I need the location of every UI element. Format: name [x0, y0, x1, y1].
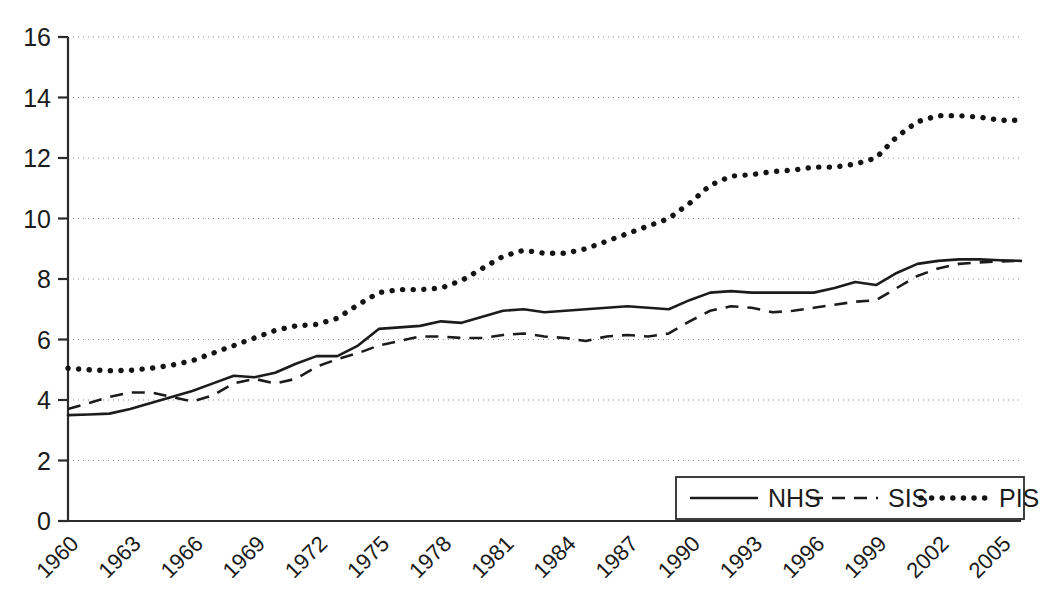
x-tick-label: 1972: [280, 531, 332, 583]
x-tick-label: 1963: [93, 531, 145, 583]
chart-legend: NHSSISPIS: [676, 477, 1039, 519]
x-tick-label: 1993: [715, 531, 767, 583]
x-tick-label: 1975: [342, 531, 394, 583]
x-tick-label: 1996: [777, 531, 829, 583]
line-chart-svg: 0246810121416 19601963196619691972197519…: [0, 0, 1059, 608]
x-tick-label: 1987: [591, 531, 643, 583]
y-tick-label: 12: [23, 144, 51, 172]
x-ticks-group: 1960196319661969197219751978198119841987…: [31, 531, 1016, 583]
x-tick-label: 2005: [964, 531, 1016, 583]
y-tick-label: 4: [37, 386, 51, 414]
y-tick-label: 6: [37, 326, 51, 354]
chart-figure: 0246810121416 19601963196619691972197519…: [0, 0, 1059, 608]
x-tick-label: 1984: [528, 531, 580, 583]
x-tick-label: 1969: [218, 531, 270, 583]
y-tick-label: 8: [37, 265, 51, 293]
y-tick-label: 14: [23, 84, 51, 112]
y-tick-label: 0: [37, 507, 51, 535]
legend-label-pis: PIS: [999, 484, 1039, 512]
x-tick-label: 1999: [839, 531, 891, 583]
series-line-pis: [68, 116, 1021, 371]
y-tick-label: 2: [37, 447, 51, 475]
y-tick-label: 16: [23, 23, 51, 51]
x-tick-label: 2002: [901, 531, 953, 583]
x-tick-label: 1978: [404, 531, 456, 583]
gridlines-group: [68, 37, 1021, 461]
data-series-group: [68, 116, 1021, 415]
x-tick-label: 1960: [31, 531, 83, 583]
x-tick-label: 1990: [653, 531, 705, 583]
y-tick-label: 10: [23, 205, 51, 233]
x-tick-label: 1981: [466, 531, 518, 583]
y-ticks-group: 0246810121416: [23, 23, 68, 535]
x-tick-label: 1966: [156, 531, 208, 583]
